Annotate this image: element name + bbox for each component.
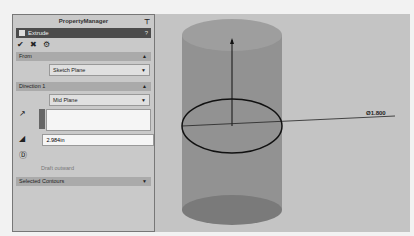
cylinder-model xyxy=(0,0,414,236)
diameter-dimension[interactable]: Ø1.800 xyxy=(366,110,386,116)
